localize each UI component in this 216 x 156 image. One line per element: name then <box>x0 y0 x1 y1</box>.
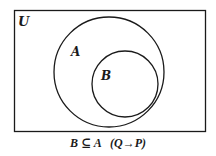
set-b-label: B <box>100 69 111 83</box>
caption: B ⊆ A (Q→P) <box>69 136 146 150</box>
venn-diagram: U A B B ⊆ A (Q→P) <box>0 0 216 156</box>
set-a-label: A <box>70 45 80 59</box>
universe-label: U <box>18 14 30 29</box>
set-b-circle <box>92 51 158 117</box>
